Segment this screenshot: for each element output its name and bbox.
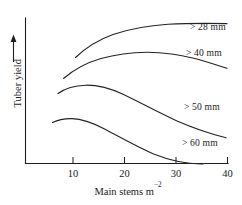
x-tick-label-20: 20 [119, 168, 130, 179]
curve-gt-60mm [53, 119, 204, 164]
series-label-gt-50mm: > 50 mm [184, 101, 220, 112]
chart-figure: 10 20 30 40 Main stems m−2 > 28 mm > 40 … [0, 0, 242, 205]
x-tick-label-10: 10 [68, 168, 79, 179]
series-label-gt-60mm: > 60 mm [182, 137, 218, 148]
x-axis-title: Main stems m−2 [94, 181, 162, 197]
tuber-yield-line-chart: 10 20 30 40 Main stems m−2 > 28 mm > 40 … [0, 0, 242, 205]
x-tick-label-40: 40 [222, 168, 233, 179]
series-label-gt-40mm: > 40 mm [186, 47, 222, 58]
y-axis-direction-arrow-head [11, 35, 17, 43]
series-label-gt-28mm: > 28 mm [190, 21, 226, 32]
y-axis-title: Tuber yield [13, 43, 24, 123]
x-tick-label-30: 30 [171, 168, 182, 179]
